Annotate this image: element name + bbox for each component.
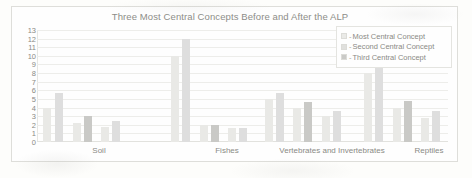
bar bbox=[101, 127, 109, 143]
legend-swatch-icon bbox=[341, 33, 347, 39]
y-axis-tick-labels: 012345678910111213 bbox=[14, 30, 36, 142]
y-axis-tick: 5 bbox=[32, 95, 36, 102]
x-axis-category-labels: SoilFishesVertebrates and InvertebratesR… bbox=[37, 146, 448, 160]
bar bbox=[333, 111, 341, 142]
legend-item: -Third Central Concept bbox=[341, 53, 447, 62]
gridline bbox=[37, 116, 448, 117]
bar bbox=[293, 108, 301, 142]
gridline bbox=[37, 82, 448, 83]
bar bbox=[421, 118, 429, 142]
legend-dash: - bbox=[349, 42, 352, 51]
legend-label: Third Central Concept bbox=[353, 53, 426, 62]
y-axis-tick: 10 bbox=[28, 52, 36, 59]
y-axis-tick: 6 bbox=[32, 87, 36, 94]
y-axis-tick: 7 bbox=[32, 78, 36, 85]
x-axis-category-label: Vertebrates and Invertebrates bbox=[279, 146, 384, 155]
y-axis-tick: 0 bbox=[32, 139, 36, 146]
bar bbox=[182, 39, 190, 142]
bar bbox=[432, 111, 440, 142]
bar bbox=[265, 99, 273, 142]
y-axis-tick: 1 bbox=[32, 130, 36, 137]
x-axis-category-label: Soil bbox=[92, 146, 105, 155]
y-axis-tick: 4 bbox=[32, 104, 36, 111]
bar bbox=[304, 102, 312, 142]
bar bbox=[171, 56, 179, 142]
x-axis-category-label: Fishes bbox=[215, 146, 239, 155]
bar bbox=[364, 73, 372, 142]
gridline bbox=[37, 90, 448, 91]
bar bbox=[200, 125, 208, 142]
bar bbox=[239, 128, 247, 142]
bar bbox=[55, 93, 63, 142]
bar bbox=[404, 101, 412, 142]
x-axis-category-label: Reptiles bbox=[415, 146, 444, 155]
gridline bbox=[37, 108, 448, 109]
bar bbox=[43, 108, 51, 142]
bar bbox=[375, 62, 383, 142]
legend-swatch-icon bbox=[341, 54, 347, 60]
y-axis-tick: 11 bbox=[28, 44, 36, 51]
y-axis-tick: 13 bbox=[28, 27, 36, 34]
bar bbox=[73, 123, 81, 142]
bar bbox=[211, 125, 219, 142]
y-axis-tick: 8 bbox=[32, 70, 36, 77]
legend-dash: - bbox=[349, 32, 352, 41]
gridline bbox=[37, 125, 448, 126]
bar bbox=[84, 116, 92, 142]
bar bbox=[276, 93, 284, 142]
chart-title: Three Most Central Concepts Before and A… bbox=[105, 11, 355, 22]
legend-swatch-icon bbox=[341, 44, 347, 50]
legend-label: Most Central Concept bbox=[353, 32, 426, 41]
y-axis-tick: 2 bbox=[32, 121, 36, 128]
legend-dash: - bbox=[349, 53, 352, 62]
legend-item: -Most Central Concept bbox=[341, 32, 447, 41]
y-axis-tick: 3 bbox=[32, 113, 36, 120]
legend-item: -Second Central Concept bbox=[341, 42, 447, 51]
y-axis-tick: 9 bbox=[32, 61, 36, 68]
chart-legend: -Most Central Concept-Second Central Con… bbox=[336, 26, 452, 68]
bar bbox=[393, 108, 401, 142]
bar bbox=[112, 121, 120, 142]
gridline bbox=[37, 99, 448, 100]
legend-label: Second Central Concept bbox=[353, 42, 435, 51]
bar bbox=[228, 128, 236, 142]
y-axis-tick: 12 bbox=[28, 35, 36, 42]
gridline bbox=[37, 73, 448, 74]
bar bbox=[322, 116, 330, 142]
